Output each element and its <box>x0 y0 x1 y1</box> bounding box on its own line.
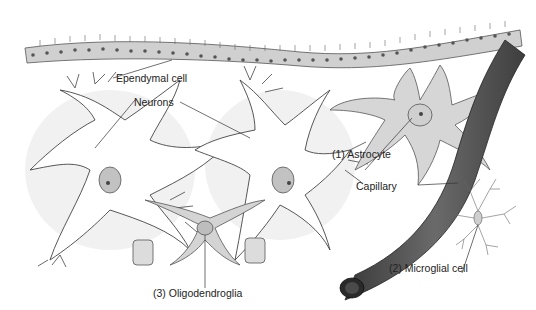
ependymal-layer <box>25 21 522 68</box>
label-oligodendroglia: (3) Oligodendroglia <box>153 287 242 299</box>
label-neurons: Neurons <box>134 96 174 108</box>
neuroglia-diagram: Ependymal cell Neurons (1) Astrocyte Cap… <box>0 0 536 310</box>
label-capillary: Capillary <box>356 180 397 192</box>
label-microglial-cell: (2) Microglial cell <box>389 262 468 274</box>
label-ependymal-cell: Ependymal cell <box>116 72 187 84</box>
label-astrocyte: (1) Astrocyte <box>332 148 391 160</box>
